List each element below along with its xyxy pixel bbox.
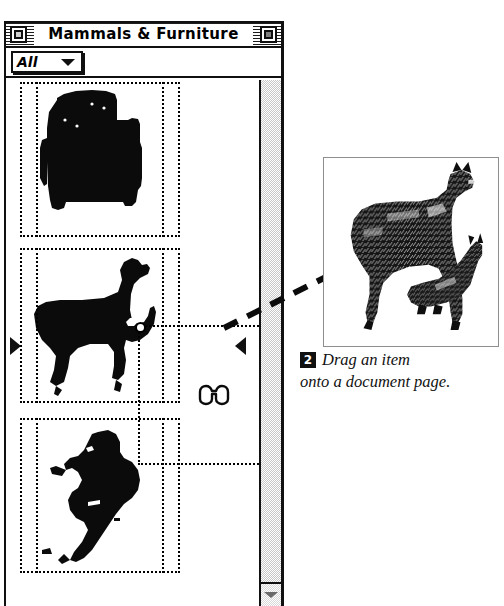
palette-scrollbar[interactable]	[259, 80, 281, 606]
llama-engraving-image	[324, 158, 498, 346]
palette-title-bar[interactable]: Mammals & Furniture	[6, 23, 281, 48]
filter-popup-menu[interactable]: All	[11, 51, 83, 73]
list-item[interactable]	[20, 248, 180, 403]
thumbnail-list[interactable]	[6, 80, 259, 606]
selection-inner-guides	[36, 418, 164, 573]
palette-toolbar: All	[6, 48, 281, 78]
scrollbar-track[interactable]	[261, 80, 281, 584]
caption: 2Drag an item onto a document page.	[300, 349, 500, 393]
spectacles-cursor-icon	[196, 383, 238, 407]
step-number-badge: 2	[300, 352, 316, 368]
palette-window[interactable]: Mammals & Furniture All	[4, 21, 284, 606]
palette-body	[6, 80, 281, 606]
split-marker-right-icon[interactable]	[235, 337, 246, 355]
caption-line-2: onto a document page.	[300, 372, 450, 391]
caption-line-1: Drag an item	[322, 350, 410, 369]
drag-ghost-handle	[135, 322, 146, 333]
filter-popup-label: All	[17, 55, 61, 70]
close-box-icon[interactable]	[10, 26, 27, 43]
selection-inner-guides	[36, 82, 164, 237]
document-page[interactable]	[323, 157, 499, 347]
scroll-down-arrow-icon	[264, 592, 278, 598]
chevron-down-icon	[61, 59, 75, 66]
scrollbar-down-button[interactable]	[261, 584, 281, 606]
zoom-box-icon[interactable]	[260, 26, 277, 43]
list-item[interactable]	[20, 82, 180, 237]
split-marker-left-icon[interactable]	[10, 337, 21, 355]
palette-title: Mammals & Furniture	[34, 25, 253, 45]
list-item[interactable]	[20, 418, 180, 573]
